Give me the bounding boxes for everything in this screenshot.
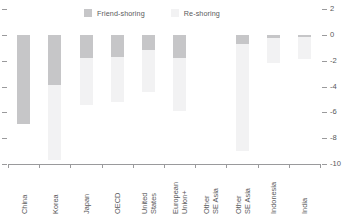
x-category-label-text: Korea [52,194,61,214]
y-axis-label: -10 [330,160,341,168]
x-tick [39,164,40,168]
x-tick [226,164,227,168]
x-category-label-text: SE Asia [244,188,253,214]
y-axis-label: -4 [330,83,337,91]
bars-layer [8,9,320,164]
y-axis-label: 2 [330,5,334,13]
x-tick [70,164,71,168]
bar-friend-shoring [17,35,30,124]
x-tick [8,164,9,168]
y-tick-right [322,112,327,113]
x-category-label-text: China [21,195,30,214]
x-category-label-text: India [301,198,310,214]
x-category-label-text: OECD [114,193,123,214]
bar-group [173,9,186,164]
y-tick-left [2,112,7,113]
bar-re-shoring [298,35,311,60]
y-tick-left [2,35,7,36]
bar-friend-shoring [80,35,93,58]
plot-area [8,9,320,164]
x-category-label-text: Other [235,196,244,214]
bar-group [267,9,280,164]
y-tick-left [2,164,7,165]
y-tick-left [2,61,7,62]
chart-container: Friend-shoring Re-shoring 20-2-4-6-8-10 … [0,0,356,217]
y-axis-label: 0 [330,31,334,39]
y-tick-right [322,164,327,165]
bar-friend-shoring [111,35,124,57]
y-tick-right [322,35,327,36]
y-tick-left [2,87,7,88]
bar-friend-shoring [236,35,249,44]
bar-friend-shoring [173,35,186,58]
x-category-label-text: Japan [83,194,92,214]
bar-group [80,9,93,164]
y-tick-right [322,138,327,139]
x-tick [258,164,259,168]
bar-group [142,9,155,164]
y-tick-right [322,87,327,88]
x-tick [289,164,290,168]
bar-group [48,9,61,164]
y-tick-right [322,9,327,10]
bar-re-shoring [236,35,249,151]
x-tick [102,164,103,168]
x-category-label-text: Union+ [181,190,190,214]
bar-friend-shoring [142,35,155,51]
bar-group [17,9,30,164]
y-tick-left [2,138,7,139]
bar-group [204,9,217,164]
bar-group [298,9,311,164]
x-tick [320,164,321,168]
x-tick [164,164,165,168]
y-tick-right [322,61,327,62]
x-tick [133,164,134,168]
bar-group [236,9,249,164]
y-tick-left [2,9,7,10]
bar-friend-shoring [298,35,311,38]
x-category-label-text: SE Asia [212,188,221,214]
bar-friend-shoring [48,35,61,85]
x-category-label-text: States [150,193,159,214]
bar-friend-shoring [267,35,280,38]
bar-group [111,9,124,164]
y-axis-label: -8 [330,134,337,142]
x-category-label-text: Indonesia [270,182,279,214]
y-axis-label: -2 [330,57,337,65]
y-axis-label: -6 [330,108,337,116]
x-tick [195,164,196,168]
bar-re-shoring [267,35,280,63]
